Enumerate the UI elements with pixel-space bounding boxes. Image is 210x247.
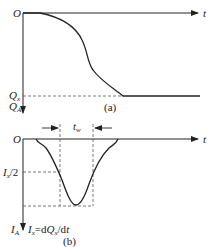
tw-label: tw bbox=[73, 120, 81, 134]
panel-b: O t tw Ix/2 IA Ix=dQx/dt (b) bbox=[2, 120, 207, 247]
t-axis-label-b: t bbox=[203, 133, 207, 145]
charge-curve bbox=[23, 13, 200, 96]
half-max-label: Ix/2 bbox=[2, 166, 18, 180]
origin-label-a: O bbox=[13, 7, 21, 19]
caption-b: (b) bbox=[63, 235, 76, 247]
diagram-canvas: O t Qx QA (a) O t tw Ix/2 IA Ix=dQx/dt (… bbox=[0, 0, 210, 247]
caption-a: (a) bbox=[104, 101, 117, 114]
origin-label-b: O bbox=[13, 133, 21, 145]
ia-axis-label: IA bbox=[10, 223, 20, 237]
panel-a: O t Qx QA (a) bbox=[9, 7, 207, 114]
t-axis-label-a: t bbox=[203, 7, 207, 19]
